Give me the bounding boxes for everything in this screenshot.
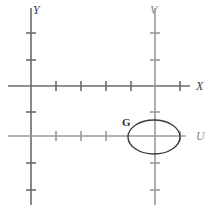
u-axis-label: U — [196, 129, 206, 143]
v-axis-label: V — [150, 3, 159, 17]
y-axis-label: Y — [33, 3, 41, 17]
ellipse-g-label: G — [122, 116, 131, 128]
v-axis — [150, 8, 160, 205]
x-axis — [8, 81, 190, 91]
u-axis — [8, 131, 186, 141]
diagram-canvas: Y V X U G — [0, 0, 211, 209]
y-axis — [26, 8, 36, 205]
x-axis-label: X — [195, 79, 204, 93]
ellipse-g — [128, 120, 180, 154]
coordinate-diagram: Y V X U G — [0, 0, 211, 209]
